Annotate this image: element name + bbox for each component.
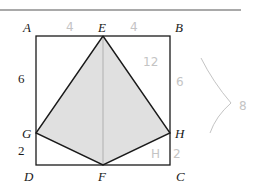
hand-bh: 6 — [176, 75, 184, 89]
geometry-figure: A E B G H D F C 6 2 4 4 12 6 H 2 8 — [0, 0, 262, 188]
label-g: G — [22, 126, 32, 141]
hand-ae: 4 — [66, 20, 74, 34]
length-gd: 2 — [18, 143, 25, 158]
hand-fh: H — [151, 147, 160, 161]
label-f: F — [97, 169, 107, 184]
label-h: H — [174, 126, 185, 141]
label-d: D — [23, 169, 34, 184]
hand-brace-total: 8 — [239, 99, 247, 113]
length-ag: 6 — [18, 71, 25, 86]
hand-eh: 12 — [143, 55, 158, 69]
label-c: C — [176, 169, 185, 184]
label-b: B — [175, 20, 183, 35]
hand-eb: 4 — [130, 20, 138, 34]
label-e: E — [97, 20, 106, 35]
label-a: A — [22, 20, 31, 35]
hand-hc: 2 — [173, 147, 181, 161]
hand-brace — [201, 58, 231, 133]
